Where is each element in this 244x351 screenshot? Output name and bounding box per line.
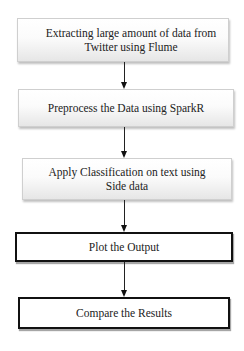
- arrow-plot-to-compare: [122, 262, 127, 297]
- arrowhead-icon: [121, 290, 127, 297]
- step-classify-line-2: Side data: [106, 179, 148, 193]
- step-plot-output-box: Plot the Output: [15, 232, 233, 262]
- step-classify-box: Apply Classification on text using Side …: [22, 158, 232, 200]
- step-extract-line-1: Extracting large amount of data from: [46, 26, 217, 40]
- arrow-shaft: [124, 127, 125, 152]
- step-compare-results-box: Compare the Results: [18, 297, 230, 329]
- arrowhead-icon: [121, 151, 127, 158]
- step-extract-data-box: Extracting large amount of data from Twi…: [17, 18, 229, 62]
- arrow-shaft: [124, 200, 125, 226]
- step-compare-line-1: Compare the Results: [76, 306, 172, 320]
- arrow-extract-to-preprocess: [122, 62, 127, 89]
- step-classify-line-1: Apply Classification on text using: [48, 165, 205, 179]
- arrowhead-icon: [121, 82, 127, 89]
- step-plot-line-1: Plot the Output: [89, 240, 159, 254]
- arrow-shaft: [124, 262, 125, 291]
- arrow-shaft: [124, 62, 125, 83]
- arrow-classify-to-plot: [122, 200, 127, 232]
- step-preprocess-line-1: Preprocess the Data using SparkR: [48, 101, 205, 115]
- arrowhead-icon: [121, 225, 127, 232]
- step-extract-line-2: Twitter using Flume: [84, 40, 177, 54]
- arrow-preprocess-to-classify: [122, 127, 127, 158]
- step-preprocess-box: Preprocess the Data using SparkR: [18, 89, 234, 127]
